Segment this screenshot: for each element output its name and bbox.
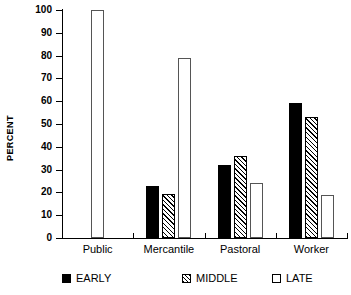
legend-item-middle: MIDDLE bbox=[182, 272, 238, 284]
y-tick-label: 40 bbox=[0, 141, 52, 152]
y-tick-label: 20 bbox=[0, 186, 52, 197]
y-tick-label: 60 bbox=[0, 95, 52, 106]
bar-chart-figure: PERCENT 1009080706050403020100 PublicMer… bbox=[0, 0, 351, 295]
y-tick-label: 50 bbox=[0, 118, 52, 129]
empty-square-icon bbox=[272, 274, 281, 283]
bar-pastoral-late bbox=[250, 183, 263, 238]
y-tick-label: 10 bbox=[0, 209, 52, 220]
y-tick-label: 70 bbox=[0, 72, 52, 83]
bar-worker-late bbox=[321, 195, 334, 238]
bar-pastoral-middle bbox=[234, 156, 247, 238]
legend-item-early: EARLY bbox=[62, 272, 111, 284]
x-axis-end-tick bbox=[347, 233, 348, 239]
bar-mercantile-late bbox=[178, 58, 191, 238]
bar-mercantile-early bbox=[146, 186, 159, 238]
x-group-label-public: Public bbox=[83, 243, 113, 255]
bar-mercantile-middle bbox=[162, 194, 175, 238]
y-tick-label: 90 bbox=[0, 27, 52, 38]
legend-label: LATE bbox=[286, 272, 313, 284]
bar-public-late bbox=[91, 10, 104, 238]
y-tick-label: 30 bbox=[0, 164, 52, 175]
y-tick-label: 80 bbox=[0, 50, 52, 61]
filled-square-icon bbox=[62, 274, 71, 283]
y-tick-label: 100 bbox=[0, 4, 52, 15]
x-group-label-worker: Worker bbox=[294, 243, 329, 255]
x-group-label-pastoral: Pastoral bbox=[220, 243, 260, 255]
bar-worker-early bbox=[289, 103, 302, 238]
bar-worker-middle bbox=[305, 117, 318, 238]
plot-area bbox=[62, 10, 347, 238]
legend-label: EARLY bbox=[76, 272, 111, 284]
y-tick-label: 0 bbox=[0, 232, 52, 243]
chart-legend: EARLYMIDDLELATE bbox=[0, 268, 351, 288]
bar-pastoral-early bbox=[218, 165, 231, 238]
legend-item-late: LATE bbox=[272, 272, 313, 284]
x-group-label-mercantile: Mercantile bbox=[144, 243, 195, 255]
hatched-square-icon bbox=[182, 274, 191, 283]
legend-label: MIDDLE bbox=[196, 272, 238, 284]
